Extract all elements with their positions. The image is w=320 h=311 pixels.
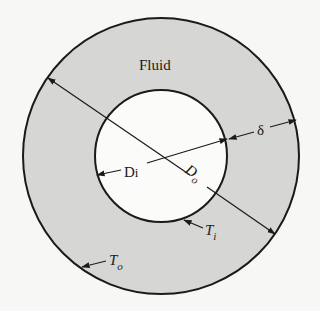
outer-temperature-sub: o xyxy=(117,260,123,272)
inner-diameter-label: Di xyxy=(124,164,139,180)
inner-diameter-main: D xyxy=(124,164,135,180)
fluid-label: Fluid xyxy=(139,57,171,73)
inner-temperature-sub: i xyxy=(213,230,216,242)
inner-diameter-sub: i xyxy=(135,165,139,180)
inner-circle xyxy=(95,90,227,222)
gap-delta-label: δ xyxy=(257,122,264,138)
annulus-diagram: Fluid Do Di δ Ti To xyxy=(0,0,320,311)
